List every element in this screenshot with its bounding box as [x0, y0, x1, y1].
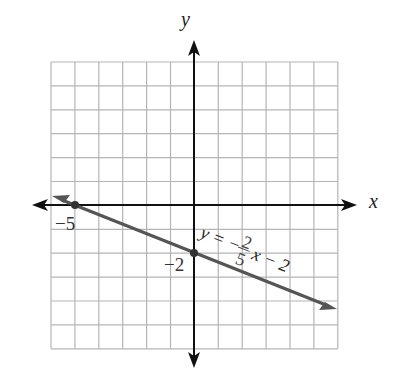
x-axis-label: x [369, 190, 378, 213]
coordinate-plane [0, 0, 398, 384]
y-axis-label: y [181, 8, 190, 31]
y-intercept-label: −2 [164, 254, 184, 276]
x-intercept-label: −5 [55, 213, 75, 235]
point-x-intercept [71, 201, 79, 209]
